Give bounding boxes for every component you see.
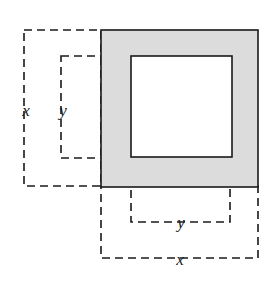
dimension-label-bottom-x: x	[176, 251, 184, 268]
dimension-label-left-x: x	[22, 102, 30, 119]
dimension-label-bottom-y: y	[177, 214, 185, 231]
dimension-label-left-y: y	[59, 102, 67, 119]
geometry-figure: x y y x	[0, 0, 270, 282]
figure-canvas	[0, 0, 270, 282]
white-inner-square	[131, 56, 232, 157]
